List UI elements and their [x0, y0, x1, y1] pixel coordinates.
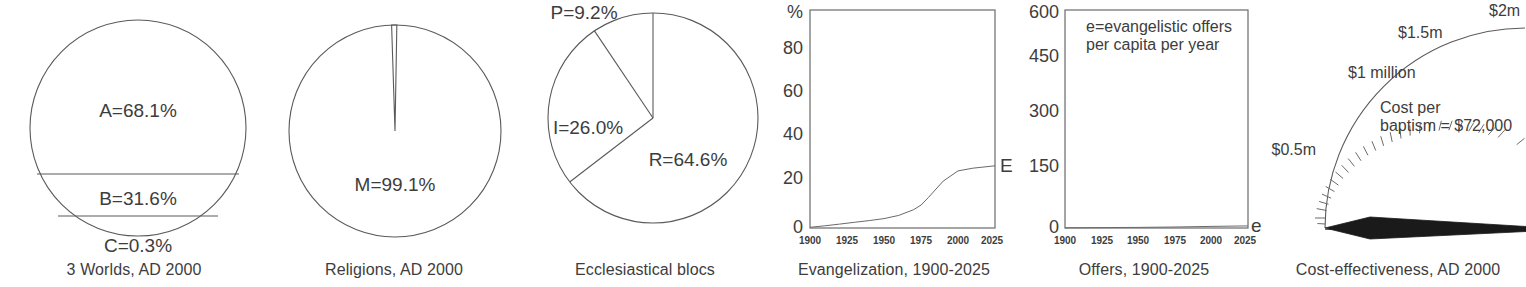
- evangelization-series-label: E: [1000, 155, 1013, 176]
- caption-cost-effectiveness: Cost-effectiveness, AD 2000: [1270, 261, 1526, 279]
- gauge-note-line2: baptism = $72,000: [1380, 117, 1512, 134]
- offers-xtick-2000: 2000: [1200, 235, 1223, 246]
- caption-offers: Offers, 1900-2025: [1018, 261, 1270, 279]
- offers-xtick-1950: 1950: [1127, 235, 1150, 246]
- offers-series-label: e: [1251, 215, 1262, 236]
- blocs-label-r: R=64.6%: [649, 149, 728, 170]
- worlds-label-a: A=68.1%: [99, 100, 177, 121]
- evangelization-xtick-1950: 1950: [873, 235, 896, 246]
- blocs-pie-chart: P=9.2% I=26.0% R=64.6%: [520, 0, 770, 287]
- offers-note-line1: e=evangelistic offers: [1086, 18, 1232, 35]
- evangelization-ytick-80: 80: [783, 38, 803, 58]
- religions-pie-chart: M=99.1%: [268, 0, 520, 287]
- evangelization-line-chart: % 80 60 40 20 0 1900 1925 1950 1975 2000…: [770, 0, 1018, 287]
- evangelization-xtick-1900: 1900: [799, 235, 822, 246]
- offers-note-line2: per capita per year: [1086, 36, 1220, 53]
- offers-xtick-1975: 1975: [1164, 235, 1187, 246]
- offers-xtick-1925: 1925: [1091, 235, 1114, 246]
- offers-ytick-300: 300: [1029, 101, 1059, 121]
- evangelization-xtick-1925: 1925: [836, 235, 859, 246]
- offers-ytick-600: 600: [1029, 2, 1059, 22]
- offers-ytick-150: 150: [1029, 156, 1059, 176]
- offers-xtick-2025: 2025: [1234, 235, 1257, 246]
- gauge-label-1-5m: $1.5m: [1398, 24, 1442, 41]
- evangelization-xtick-1975: 1975: [910, 235, 933, 246]
- evangelization-xtick-2000: 2000: [947, 235, 970, 246]
- panel-ecclesiastical-blocs: P=9.2% I=26.0% R=64.6% Ecclesiastical bl…: [520, 0, 770, 287]
- panel-evangelization: % 80 60 40 20 0 1900 1925 1950 1975 2000…: [770, 0, 1018, 287]
- blocs-divider-i-p: [594, 31, 653, 118]
- worlds-label-c: C=0.3%: [104, 235, 172, 256]
- panel-religions: M=99.1% Religions, AD 2000: [268, 0, 520, 287]
- evangelization-ytick-60: 60: [783, 81, 803, 101]
- three-worlds-chart: A=68.1% B=31.6% C=0.3%: [0, 0, 268, 287]
- panel-3-worlds: A=68.1% B=31.6% C=0.3% 3 Worlds, AD 2000: [0, 0, 268, 287]
- worlds-label-b: B=31.6%: [99, 188, 177, 209]
- gauge-label-0-5m: $0.5m: [1272, 141, 1316, 158]
- offers-line-chart: 600 450 300 150 0 1900 1925 1950 1975 20…: [1018, 0, 1270, 287]
- evangelization-ytick-20: 20: [783, 168, 803, 188]
- evangelization-yaxis-unit: %: [787, 2, 803, 22]
- gauge-note-line1: Cost per: [1380, 99, 1441, 116]
- evangelization-data-line: [810, 166, 995, 228]
- evangelization-xtick-2025: 2025: [981, 235, 1004, 246]
- gauge-needle: [1325, 217, 1526, 239]
- caption-ecclesiastical-blocs: Ecclesiastical blocs: [520, 261, 770, 279]
- blocs-label-p: P=9.2%: [550, 2, 617, 23]
- cost-effectiveness-gauge: $0.5m $1 million $1.5m $2m Cost per bapt…: [1270, 0, 1526, 287]
- caption-evangelization: Evangelization, 1900-2025: [770, 261, 1018, 279]
- offers-ytick-0: 0: [1049, 217, 1059, 237]
- religions-label-m: M=99.1%: [355, 174, 436, 195]
- blocs-label-i: I=26.0%: [553, 117, 623, 138]
- evangelization-ytick-40: 40: [783, 124, 803, 144]
- offers-xtick-1900: 1900: [1054, 235, 1077, 246]
- panel-cost-effectiveness: $0.5m $1 million $1.5m $2m Cost per bapt…: [1270, 0, 1526, 287]
- religions-minor-slice: [392, 25, 397, 131]
- gauge-label-2m: $2m: [1489, 2, 1520, 19]
- caption-3-worlds: 3 Worlds, AD 2000: [0, 261, 268, 279]
- evangelization-ytick-0: 0: [793, 217, 803, 237]
- gauge-label-1-million: $1 million: [1348, 64, 1416, 81]
- gauge-tick-marks: [1315, 121, 1495, 218]
- caption-religions: Religions, AD 2000: [268, 261, 520, 279]
- evangelization-plot-frame: [810, 10, 995, 228]
- panel-offers: 600 450 300 150 0 1900 1925 1950 1975 20…: [1018, 0, 1270, 287]
- offers-ytick-450: 450: [1029, 46, 1059, 66]
